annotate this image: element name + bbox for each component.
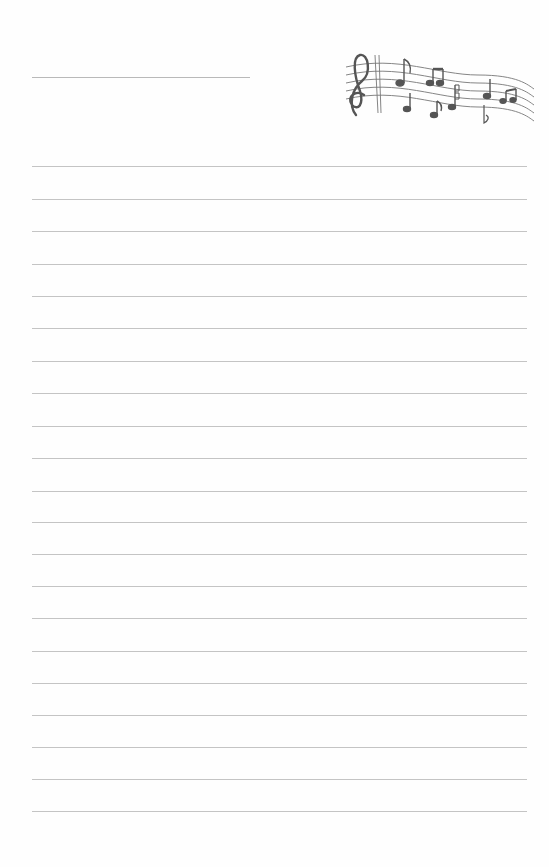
writing-line-15[interactable] [32,618,527,619]
writing-line-21[interactable] [32,811,527,812]
writing-line-9[interactable] [32,426,527,427]
writing-line-5[interactable] [32,296,527,297]
writing-line-2[interactable] [32,199,527,200]
writing-line-4[interactable] [32,264,527,265]
writing-line-8[interactable] [32,393,527,394]
writing-line-13[interactable] [32,554,527,555]
writing-line-10[interactable] [32,458,527,459]
writing-line-7[interactable] [32,361,527,362]
writing-line-16[interactable] [32,651,527,652]
writing-line-20[interactable] [32,779,527,780]
stationery-page [0,0,549,867]
writing-line-11[interactable] [32,491,527,492]
writing-line-6[interactable] [32,328,527,329]
writing-line-3[interactable] [32,231,527,232]
title-write-line[interactable] [32,77,250,78]
writing-line-14[interactable] [32,586,527,587]
writing-line-19[interactable] [32,747,527,748]
writing-line-18[interactable] [32,715,527,716]
writing-line-12[interactable] [32,522,527,523]
music-staff-icon [338,45,538,133]
writing-line-17[interactable] [32,683,527,684]
writing-line-1[interactable] [32,166,527,167]
